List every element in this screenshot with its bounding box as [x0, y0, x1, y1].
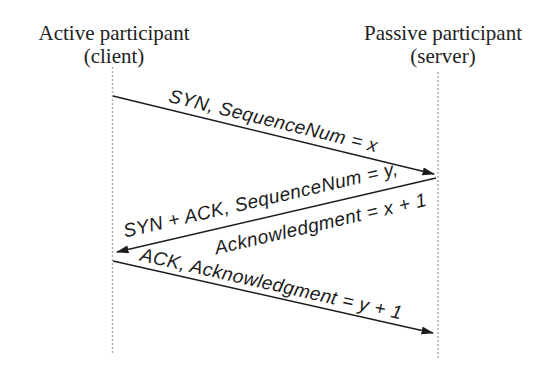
tcp-handshake-figure: Active participant (client) Passive part…	[0, 0, 559, 375]
ack-arrow	[113, 261, 433, 333]
sequence-diagram: Active participant (client) Passive part…	[0, 0, 559, 375]
server-participant-role: (server)	[410, 44, 475, 68]
server-participant-name: Passive participant	[364, 21, 522, 45]
client-participant-role: (client)	[84, 44, 145, 68]
syn-message-label: SYN, SequenceNum = x	[167, 85, 381, 156]
client-participant-name: Active participant	[38, 21, 189, 45]
ack-message-label: ACK, Acknowledgment = y + 1	[138, 244, 405, 324]
